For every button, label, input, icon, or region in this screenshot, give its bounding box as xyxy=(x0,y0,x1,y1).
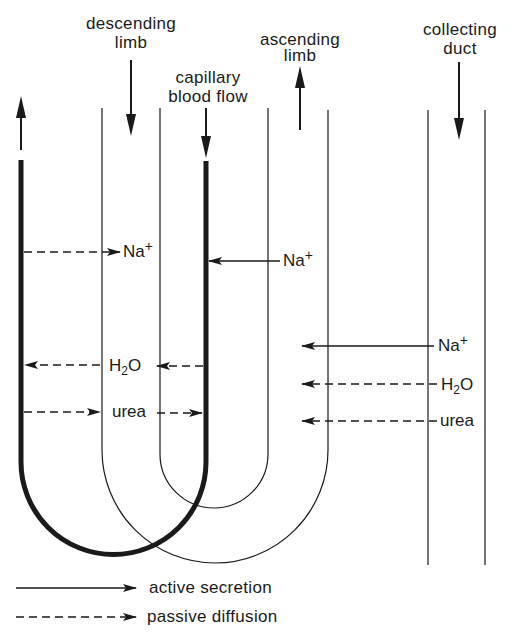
na-label-descending: Na+ xyxy=(122,243,154,261)
h-text: H xyxy=(109,356,121,375)
urea-label-duct: urea xyxy=(439,412,475,430)
na-text: Na xyxy=(438,336,460,355)
na-text: Na xyxy=(283,251,305,270)
descending-flow-arrow-icon xyxy=(126,60,136,136)
h-text: H xyxy=(441,375,453,394)
loop-outer-wall xyxy=(102,108,328,563)
o-text: O xyxy=(128,356,141,375)
capillary-label: capillary blood flow xyxy=(158,68,258,106)
ascending-limb-label: ascending limb xyxy=(245,30,355,65)
h2o-label-duct: H2O xyxy=(440,376,474,394)
plus-superscript: + xyxy=(460,332,468,348)
descending-label-line1: descending xyxy=(76,14,186,33)
na-label-duct: Na+ xyxy=(437,337,469,355)
descending-label-line2: limb xyxy=(76,33,186,52)
capillary-outflow-arrow-icon xyxy=(16,96,26,150)
h2o-label-descending: H2O xyxy=(108,357,142,375)
plus-superscript: + xyxy=(145,238,153,254)
collecting-label-line2: duct xyxy=(405,39,513,58)
na-label-ascending: Na+ xyxy=(282,252,314,270)
urea-label-descending: urea xyxy=(111,403,147,421)
capillary-inflow-arrow-icon xyxy=(201,108,211,158)
legend-passive-label: passive diffusion xyxy=(147,607,277,627)
na-text: Na xyxy=(123,242,145,261)
capillary-label-line2: blood flow xyxy=(158,87,258,106)
plus-superscript: + xyxy=(305,247,313,263)
two-subscript: 2 xyxy=(453,383,460,397)
o-text: O xyxy=(460,375,473,394)
urea-text: urea xyxy=(440,411,474,430)
ascending-flow-arrow-icon xyxy=(295,66,305,130)
two-subscript: 2 xyxy=(121,364,128,378)
collecting-duct-flow-arrow-icon xyxy=(454,62,464,140)
capillary-label-line1: capillary xyxy=(158,68,258,87)
descending-limb-label: descending limb xyxy=(76,14,186,52)
legend-active-label: active secretion xyxy=(149,578,272,598)
urea-text: urea xyxy=(112,402,146,421)
collecting-duct-label: collecting duct xyxy=(405,20,513,58)
collecting-label-line1: collecting xyxy=(405,20,513,39)
loop-inner-wall xyxy=(160,108,268,508)
